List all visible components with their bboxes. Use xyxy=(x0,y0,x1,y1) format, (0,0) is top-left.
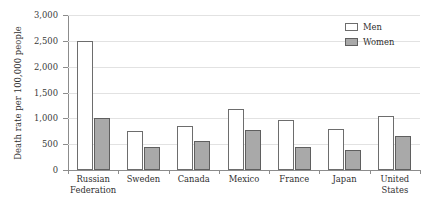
legend-label: Men xyxy=(363,22,382,32)
bar-women-mexico xyxy=(245,130,261,170)
gridline xyxy=(68,118,420,119)
y-tick-label: 2,000 xyxy=(10,62,58,72)
gridline xyxy=(68,170,420,171)
legend-label: Women xyxy=(363,37,394,47)
x-axis-label-france: France xyxy=(269,174,319,185)
x-axis-label-russian-federation: RussianFederation xyxy=(68,174,118,196)
bar-men-sweden xyxy=(127,131,143,170)
y-tick-label: 3,000 xyxy=(10,10,58,20)
y-tick-label: 500 xyxy=(10,139,58,149)
y-tick-label: 1,500 xyxy=(10,88,58,98)
x-axis-label-mexico: Mexico xyxy=(219,174,269,185)
legend-item-women: Women xyxy=(345,34,394,49)
x-tick-mark xyxy=(420,170,421,174)
x-axis-label-japan: Japan xyxy=(319,174,369,185)
legend-item-men: Men xyxy=(345,19,394,34)
bar-women-france xyxy=(295,147,311,170)
bar-men-mexico xyxy=(228,109,244,170)
bar-men-france xyxy=(278,120,294,170)
bar-women-united-states xyxy=(395,136,411,170)
bar-women-sweden xyxy=(144,147,160,170)
bar-men-japan xyxy=(328,129,344,170)
bar-women-canada xyxy=(194,141,210,170)
x-axis-label-sweden: Sweden xyxy=(118,174,168,185)
x-axis-label-canada: Canada xyxy=(169,174,219,185)
y-tick-label: 2,500 xyxy=(10,36,58,46)
gridline xyxy=(68,67,420,68)
x-axis-label-united-states: UnitedStates xyxy=(370,174,420,196)
legend-swatch-men-icon xyxy=(345,23,358,31)
bar-women-japan xyxy=(345,150,361,170)
bar-chart: Death rate per 100,000 people 05001,0001… xyxy=(0,0,430,201)
y-tick-label: 0 xyxy=(10,165,58,175)
bar-women-russian-federation xyxy=(94,118,110,170)
x-axis-category-labels: RussianFederationSwedenCanadaMexicoFranc… xyxy=(68,174,420,201)
bar-men-united-states xyxy=(378,116,394,170)
y-tick-label: 1,000 xyxy=(10,113,58,123)
gridline xyxy=(68,15,420,16)
chart-legend: MenWomen xyxy=(345,19,394,49)
bar-men-canada xyxy=(177,126,193,170)
legend-swatch-women-icon xyxy=(345,38,358,46)
gridline xyxy=(68,93,420,94)
bar-men-russian-federation xyxy=(77,41,93,170)
